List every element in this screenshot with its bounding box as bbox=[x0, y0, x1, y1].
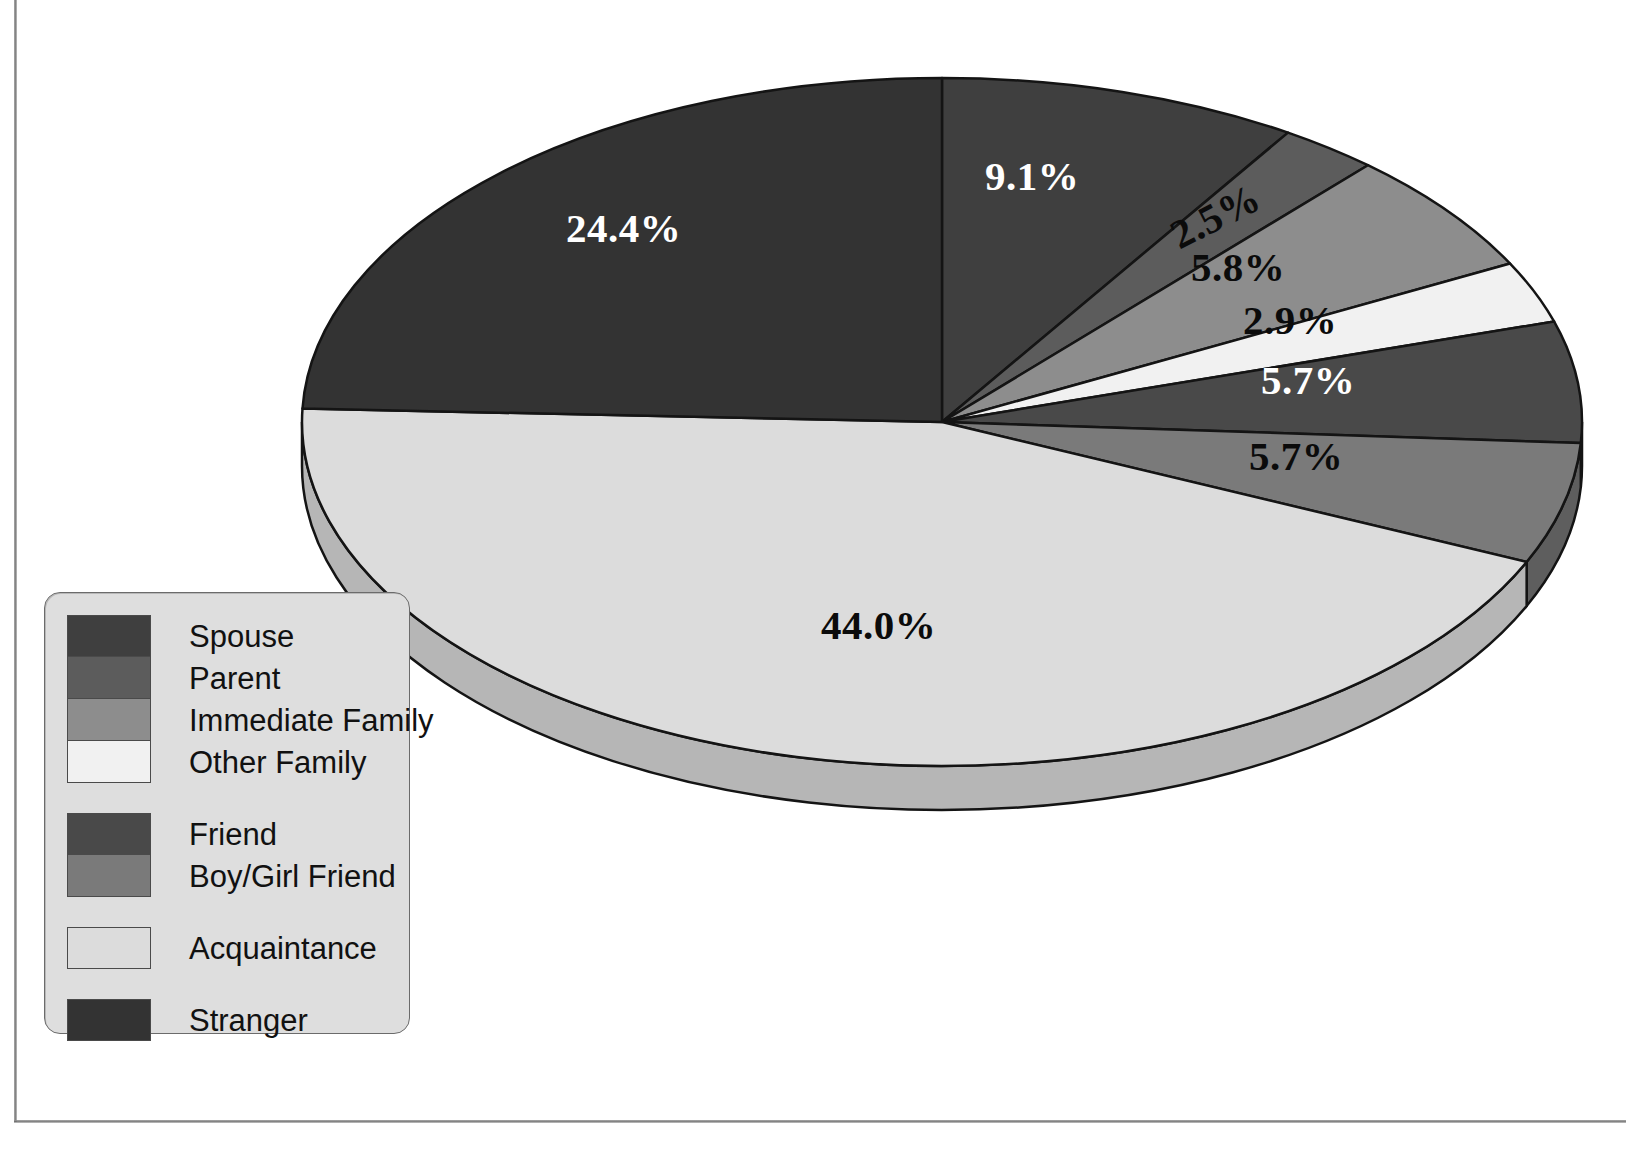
legend-swatch-boy-girl-friend bbox=[67, 855, 151, 897]
legend-swatch-stranger bbox=[67, 999, 151, 1041]
legend-item-immediate-family[interactable]: Immediate Family bbox=[67, 699, 434, 741]
legend-swatch-spouse bbox=[67, 615, 151, 657]
legend-item-acquaintance[interactable]: Acquaintance bbox=[67, 927, 377, 969]
legend-item-other-family[interactable]: Other Family bbox=[67, 741, 366, 783]
pie-top-faces bbox=[302, 78, 1582, 766]
scanned-page: 9.1%2.5%5.8%2.9%5.7%5.7%44.0%24.4% Spous… bbox=[0, 0, 1647, 1149]
legend-item-parent[interactable]: Parent bbox=[67, 657, 280, 699]
legend-swatch-immediate-family bbox=[67, 699, 151, 741]
legend-label-immediate-family: Immediate Family bbox=[189, 705, 434, 736]
legend-swatch-other-family bbox=[67, 741, 151, 783]
legend-swatch-parent bbox=[67, 657, 151, 699]
legend-item-stranger[interactable]: Stranger bbox=[67, 999, 308, 1041]
legend-swatch-friend bbox=[67, 813, 151, 855]
legend-label-other-family: Other Family bbox=[189, 747, 366, 778]
legend-label-spouse: Spouse bbox=[189, 621, 294, 652]
legend-label-parent: Parent bbox=[189, 663, 280, 694]
pie-slice-stranger[interactable] bbox=[302, 78, 942, 422]
legend-item-spouse[interactable]: Spouse bbox=[67, 615, 294, 657]
legend-label-acquaintance: Acquaintance bbox=[189, 933, 377, 964]
legend-item-boy-girl-friend[interactable]: Boy/Girl Friend bbox=[67, 855, 396, 897]
legend-swatch-acquaintance bbox=[67, 927, 151, 969]
legend-label-boy-girl-friend: Boy/Girl Friend bbox=[189, 861, 396, 892]
chart-legend: SpouseParentImmediate FamilyOther Family… bbox=[44, 592, 410, 1034]
legend-item-friend[interactable]: Friend bbox=[67, 813, 277, 855]
legend-label-stranger: Stranger bbox=[189, 1005, 308, 1036]
legend-label-friend: Friend bbox=[189, 819, 277, 850]
